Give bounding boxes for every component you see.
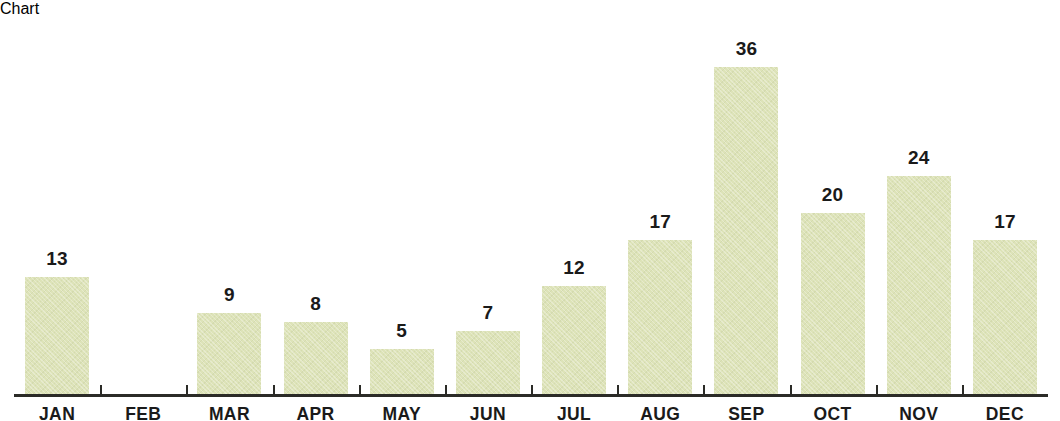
x-tick-label-aug: AUG (617, 401, 703, 421)
x-tick-label-feb: FEB (100, 401, 186, 421)
x-axis-tick-6 (531, 385, 533, 395)
bar-value-label-jul: 12 (563, 258, 585, 277)
bar-value-label-apr: 8 (310, 294, 321, 313)
bar-value-label-aug: 17 (649, 212, 671, 231)
bar-group-feb (100, 18, 186, 395)
bar-mar[interactable] (197, 313, 261, 395)
bar-value-label-jan: 13 (46, 249, 68, 268)
bar-dec[interactable] (973, 240, 1037, 395)
x-axis-tick-1 (100, 385, 102, 395)
bar-aug[interactable] (628, 240, 692, 395)
bar-group-jul: 12 (531, 18, 617, 395)
bar-value-label-may: 5 (396, 321, 407, 340)
bar-value-label-sep: 36 (736, 39, 758, 58)
x-tick-label-oct: OCT (790, 401, 876, 421)
x-tick-label-may: MAY (359, 401, 445, 421)
x-tick-label-apr: APR (273, 401, 359, 421)
bar-jan[interactable] (25, 277, 89, 395)
x-axis-tick-7 (617, 385, 619, 395)
x-axis-tick-10 (876, 385, 878, 395)
x-axis-tick-2 (186, 385, 188, 395)
x-tick-label-nov: NOV (876, 401, 962, 421)
x-tick-label-jul: JUL (531, 401, 617, 421)
x-axis-tick-3 (273, 385, 275, 395)
bar-apr[interactable] (284, 322, 348, 395)
x-axis-tick-4 (359, 385, 361, 395)
bar-group-nov: 24 (876, 18, 962, 395)
bar-value-label-mar: 9 (224, 285, 235, 304)
x-tick-label-mar: MAR (186, 401, 272, 421)
bar-value-label-jun: 7 (483, 303, 494, 322)
bar-group-jun: 7 (445, 18, 531, 395)
x-axis-tick-5 (445, 385, 447, 395)
bar-group-sep: 36 (703, 18, 789, 395)
bar-sep[interactable] (714, 67, 778, 395)
plot-area: 139857121736202417 (14, 18, 1048, 395)
bar-chart: 139857121736202417 JANFEBMARAPRMAYJUNJUL… (0, 18, 1060, 421)
bar-jul[interactable] (542, 286, 606, 395)
x-tick-label-jan: JAN (14, 401, 100, 421)
bar-oct[interactable] (801, 213, 865, 395)
bar-group-oct: 20 (790, 18, 876, 395)
bar-group-mar: 9 (186, 18, 272, 395)
bar-nov[interactable] (887, 176, 951, 395)
bar-group-may: 5 (359, 18, 445, 395)
x-axis-tick-11 (962, 385, 964, 395)
bar-value-label-nov: 24 (908, 148, 930, 167)
bar-value-label-dec: 17 (994, 212, 1016, 231)
bar-group-dec: 17 (962, 18, 1048, 395)
x-axis-tick-9 (790, 385, 792, 395)
bar-value-label-oct: 20 (822, 185, 844, 204)
x-axis-tick-8 (703, 385, 705, 395)
x-tick-label-sep: SEP (703, 401, 789, 421)
bar-group-jan: 13 (14, 18, 100, 395)
x-tick-label-jun: JUN (445, 401, 531, 421)
bar-group-apr: 8 (273, 18, 359, 395)
bar-may[interactable] (370, 349, 434, 395)
bar-jun[interactable] (456, 331, 520, 395)
x-tick-label-dec: DEC (962, 401, 1048, 421)
x-axis-category-labels: JANFEBMARAPRMAYJUNJULAUGSEPOCTNOVDEC (14, 401, 1048, 421)
bar-group-aug: 17 (617, 18, 703, 395)
